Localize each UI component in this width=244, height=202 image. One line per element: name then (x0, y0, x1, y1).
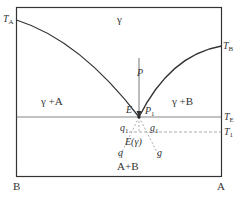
label-te: TE (224, 112, 234, 125)
phase-diagram: TA TB TE T1 γ γ +A γ +B A+B P E P1 q1 g1… (0, 0, 244, 202)
region-gamma-b: γ +B (172, 96, 193, 106)
liquidus-curve-a (17, 20, 140, 117)
label-q1: q1 (120, 123, 129, 136)
axis-label-a: A (217, 181, 225, 191)
label-e-gamma: E(γ) (125, 137, 142, 147)
region-gamma-a: γ +A (41, 96, 63, 106)
label-ta: TA (3, 14, 14, 27)
region-solid-a-b: A+B (117, 161, 138, 171)
label-g1: g1 (150, 123, 159, 136)
label-tb: TB (223, 41, 233, 54)
label-t1: T1 (224, 127, 233, 140)
axis-label-b: B (13, 181, 20, 191)
label-p: P (137, 68, 143, 78)
label-q: q (118, 148, 123, 158)
region-liquid: γ (117, 14, 122, 24)
eutectic-point (137, 115, 140, 118)
label-p1: P1 (145, 106, 155, 119)
label-g: g (157, 148, 162, 158)
label-e: E (126, 105, 132, 115)
